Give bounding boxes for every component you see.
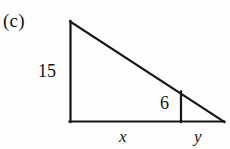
left-leg-measure-label: 15 — [38, 62, 56, 80]
geometry-figure: (c) 15 6 x y — [0, 0, 230, 149]
hypotenuse-line — [70, 22, 225, 123]
inner-segment-measure-label: 6 — [160, 94, 169, 112]
part-label: (c) — [3, 11, 25, 30]
base-left-segment-label: x — [119, 128, 127, 145]
base-right-segment-label: y — [194, 128, 202, 145]
